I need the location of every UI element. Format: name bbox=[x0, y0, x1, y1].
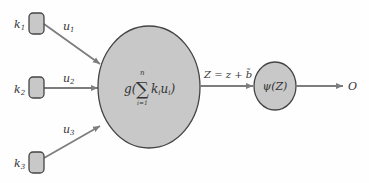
bias-label: Z = z + b̃ bbox=[203, 68, 252, 80]
signal-label-1: u1 bbox=[63, 20, 75, 34]
input-node-1 bbox=[29, 13, 44, 34]
svg-text:∑: ∑ bbox=[136, 78, 149, 99]
weight-label-1: k1 bbox=[14, 18, 25, 32]
summation-node bbox=[98, 26, 200, 148]
input-node-2 bbox=[29, 77, 44, 98]
activation-label: ψ(Z) bbox=[263, 80, 288, 93]
signal-label-3: u3 bbox=[63, 123, 75, 137]
neuron-diagram: k1 k2 k3 u1 u2 u3 g( ∑ n i=1 kiui) Z = z… bbox=[0, 0, 369, 183]
svg-text:n: n bbox=[140, 69, 145, 77]
svg-text:g(: g( bbox=[124, 82, 137, 96]
signal-label-2: u2 bbox=[63, 72, 75, 86]
svg-text:i=1: i=1 bbox=[137, 99, 148, 106]
output-label: O bbox=[348, 80, 357, 93]
input-node-3 bbox=[29, 152, 44, 173]
weight-label-2: k2 bbox=[14, 83, 26, 97]
svg-text:kiui): kiui) bbox=[151, 82, 176, 97]
weight-label-3: k3 bbox=[14, 157, 26, 171]
